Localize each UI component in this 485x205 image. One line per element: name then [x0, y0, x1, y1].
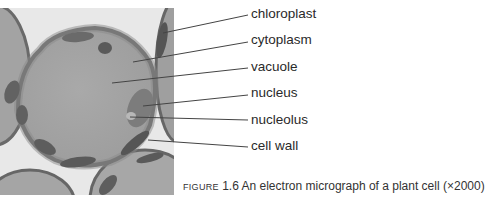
- label-cell-wall: cell wall: [251, 138, 298, 154]
- label-nucleolus: nucleolus: [251, 112, 308, 128]
- caption-number: 1.6: [222, 179, 239, 193]
- label-nucleus: nucleus: [251, 85, 298, 101]
- label-vacuole: vacuole: [251, 59, 298, 75]
- label-cytoplasm: cytoplasm: [251, 32, 312, 48]
- figure-caption: Figure 1.6 An electron micrograph of a p…: [183, 178, 485, 195]
- caption-figure-word: Figure: [183, 182, 219, 192]
- caption-text: An electron micrograph of a plant cell (…: [242, 179, 485, 193]
- label-chloroplast: chloroplast: [251, 6, 316, 22]
